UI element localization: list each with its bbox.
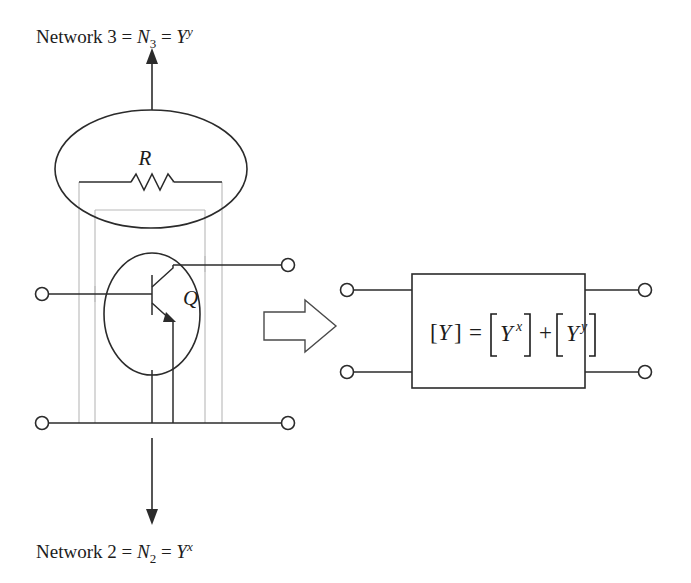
eq-term2-bracket-open: [557, 314, 563, 356]
network3-prefix: Network 3 =: [36, 26, 137, 47]
eq-lhs-symbol: Y: [438, 320, 453, 345]
eq-term1-bracket-open: [491, 314, 497, 356]
arrow-down-head: [146, 509, 158, 525]
network2-prefix: Network 2 =: [36, 541, 137, 562]
eq-lhs-close: ]: [454, 320, 462, 345]
terminal-right-top: [282, 259, 295, 272]
terminal-left-bottom: [36, 417, 49, 430]
right-network-group: [341, 274, 652, 388]
network3-label: Network 3 = N3 = Yy: [36, 24, 193, 51]
terminal-right-bottom: [282, 417, 295, 430]
transistor-emitter-arrow: [163, 312, 176, 322]
admittance-equation: [ Y ] = Y x + Y y: [430, 314, 595, 356]
partition-rect-resistor: [79, 182, 222, 423]
subnetwork-partition-outlines: [79, 182, 222, 423]
transistor-collector-lead: [152, 265, 173, 287]
eq-term1-symbol: Y: [500, 321, 515, 346]
diagram-canvas: Network 3 = N3 = Yy Network 2 = N2 = Yx …: [0, 0, 691, 583]
network2-y-superscript: x: [186, 539, 193, 554]
transistor-symbol-group: [152, 265, 176, 338]
network3-equals: =: [156, 26, 176, 47]
eq-equals: =: [469, 320, 482, 345]
terminal-left-top: [36, 288, 49, 301]
right-terminal-bottom-left: [341, 366, 354, 379]
equivalence-block-arrow: [264, 300, 336, 352]
network-decomposition-figure: Network 3 = N3 = Yy Network 2 = N2 = Yx …: [0, 0, 691, 583]
eq-plus: +: [539, 320, 552, 345]
resistor-zigzag: [131, 174, 174, 190]
eq-term1-superscript: x: [515, 319, 523, 334]
eq-term2-superscript: y: [579, 319, 588, 334]
eq-term2-symbol: Y: [566, 321, 581, 346]
network2-equals: =: [156, 541, 176, 562]
eq-lhs-open: [: [430, 320, 438, 345]
network3-y-superscript: y: [185, 24, 193, 39]
transistor-label: Q: [183, 286, 198, 310]
network2-label: Network 2 = N2 = Yx: [36, 539, 193, 566]
right-terminal-bottom-right: [639, 366, 652, 379]
eq-term2-bracket-close: [589, 314, 595, 356]
arrow-to-network2: [146, 438, 158, 525]
arrow-to-network3: [146, 48, 158, 110]
right-terminal-top-left: [341, 284, 354, 297]
eq-term1-bracket-close: [524, 314, 530, 356]
right-terminal-top-right: [639, 284, 652, 297]
partition-rect-transistor: [95, 210, 205, 423]
resistor-label: R: [138, 146, 152, 170]
